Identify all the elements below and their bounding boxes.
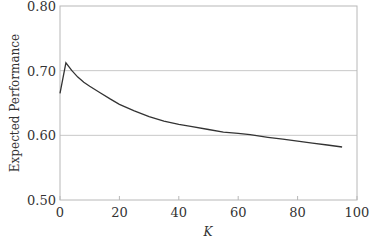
y-tick-label: 0.60: [27, 128, 56, 143]
x-tick-label: 20: [111, 205, 128, 220]
plot-frame: [60, 6, 357, 200]
y-tick-label: 0.50: [27, 193, 56, 208]
x-tick-label: 0: [56, 205, 64, 220]
x-tick-label: 80: [289, 205, 306, 220]
y-tick-label: 0.80: [27, 0, 56, 14]
y-axis-label: Expected Performance: [8, 34, 22, 172]
x-tick-label: 40: [171, 205, 188, 220]
x-tick-label: 60: [230, 205, 247, 220]
gridlines: [60, 71, 357, 136]
y-tick-label: 0.70: [27, 64, 56, 79]
x-tick-label: 100: [345, 205, 370, 220]
series-line: [60, 63, 342, 147]
x-axis-label: K: [203, 225, 214, 239]
line-chart: 0.500.600.700.80 020406080100 K Expected…: [0, 0, 375, 242]
y-axis-ticks: 0.500.600.700.80: [27, 0, 56, 208]
